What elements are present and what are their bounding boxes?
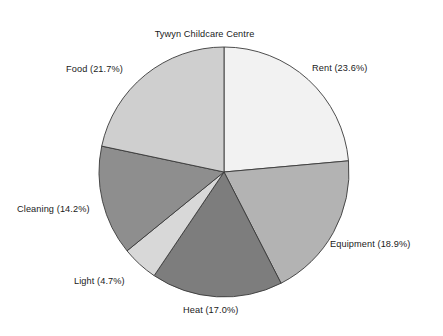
- pie-label-light: Light (4.7%): [74, 276, 125, 287]
- pie-slices: [99, 47, 349, 297]
- pie-svg: [0, 0, 443, 336]
- pie-label-food: Food (21.7%): [66, 64, 123, 75]
- pie-chart-figure: Tywyn Childcare Centre Budget for 1996 R…: [0, 0, 443, 336]
- pie-label-heat: Heat (17.0%): [183, 305, 238, 316]
- pie-label-equipment: Equipment (18.9%): [330, 239, 410, 250]
- pie-label-rent: Rent (23.6%): [312, 63, 367, 74]
- pie-label-cleaning: Cleaning (14.2%): [17, 204, 90, 215]
